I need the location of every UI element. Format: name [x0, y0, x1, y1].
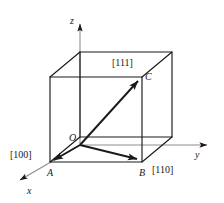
- miller-index-110: [110]: [152, 165, 173, 175]
- point-label-a: A: [47, 168, 53, 178]
- vector-111-OC: [80, 81, 138, 145]
- point-label-b: B: [139, 168, 145, 178]
- cube-edge-tl: [50, 52, 80, 77]
- point-label-o: O: [69, 133, 76, 143]
- point-label-c: C: [145, 72, 152, 82]
- y-axis-label: y: [195, 150, 199, 160]
- cube-edge-br: [142, 137, 172, 162]
- cube-diagram-svg: [0, 0, 224, 203]
- vector-110-OB: [80, 145, 137, 159]
- x-axis-label: x: [27, 186, 31, 196]
- miller-index-111: [111]: [112, 58, 133, 68]
- miller-index-100: [100]: [10, 150, 32, 160]
- z-axis-label: z: [70, 16, 74, 26]
- axis-lines: [20, 24, 207, 180]
- crystal-direction-figure: z y x O A B C [100] [110] [111]: [0, 0, 224, 203]
